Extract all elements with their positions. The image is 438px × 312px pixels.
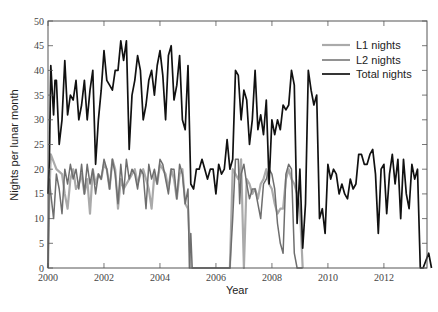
x-tick-label: 2000 bbox=[38, 272, 58, 283]
y-tick-label: 20 bbox=[34, 164, 44, 175]
x-tick-label: 2006 bbox=[206, 272, 226, 283]
x-tick-label: 2008 bbox=[262, 272, 282, 283]
y-tick-label: 35 bbox=[34, 90, 44, 101]
x-axis-title: Year bbox=[226, 284, 249, 296]
y-tick-label: 45 bbox=[34, 40, 44, 51]
x-tick-label: 2002 bbox=[94, 272, 114, 283]
x-tick-label: 2012 bbox=[374, 272, 394, 283]
y-tick-label: 5 bbox=[39, 238, 44, 249]
legend-label-l2: L2 nights bbox=[356, 54, 401, 66]
y-axis-title: Nights per lunar month bbox=[8, 89, 20, 200]
legend: L1 nights L2 nights Total nights bbox=[322, 39, 412, 80]
y-tick-label: 50 bbox=[34, 16, 44, 27]
line-chart: 05101520253035404550 2000200220042006200… bbox=[0, 0, 438, 312]
y-tick-label: 30 bbox=[34, 114, 44, 125]
y-tick-label: 25 bbox=[34, 139, 44, 150]
x-tick-label: 2004 bbox=[150, 272, 170, 283]
legend-label-l1: L1 nights bbox=[356, 39, 401, 51]
y-tick-label: 15 bbox=[34, 188, 44, 199]
y-tick-label: 10 bbox=[34, 213, 44, 224]
legend-label-total: Total nights bbox=[356, 68, 412, 80]
y-tick-label: 40 bbox=[34, 65, 44, 76]
x-tick-label: 2010 bbox=[318, 272, 338, 283]
